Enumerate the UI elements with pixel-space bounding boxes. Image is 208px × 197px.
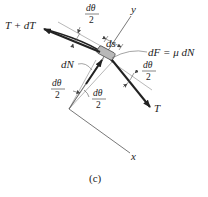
belt-element-free-body-diagram: x y ds T + dT T dN dF = μ dN dθ 2 dθ: [0, 0, 208, 197]
svg-text:2: 2: [55, 90, 60, 100]
svg-text:dθ: dθ: [52, 78, 62, 88]
tension-plus-label: T + dT: [5, 19, 36, 31]
normal-force-label: dN: [61, 58, 75, 70]
friction-leader: [112, 51, 147, 58]
svg-text:dθ: dθ: [86, 3, 96, 13]
svg-text:2: 2: [89, 15, 94, 25]
ds-label: ds: [106, 37, 116, 49]
x-axis-label: x: [130, 150, 136, 162]
svg-text:2: 2: [96, 100, 101, 110]
svg-text:dθ: dθ: [93, 88, 103, 98]
figure-caption: (c): [89, 172, 102, 185]
friction-label: dF = μ dN: [148, 46, 195, 58]
normal-force-leader: [78, 64, 92, 70]
svg-text:2: 2: [146, 72, 151, 82]
axes: [69, 16, 131, 153]
y-axis-label: y: [130, 3, 136, 15]
tension-label: T: [154, 102, 161, 114]
x-axis: [69, 109, 130, 153]
angle-lower-right: dθ 2: [84, 88, 106, 110]
svg-text:dθ: dθ: [143, 60, 153, 70]
